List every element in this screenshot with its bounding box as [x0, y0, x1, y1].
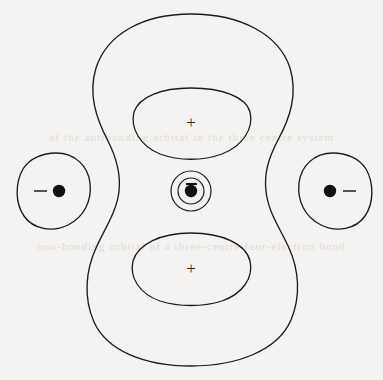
- left-side-lobe-group: [17, 153, 90, 229]
- left-nucleus-dot: [53, 185, 65, 197]
- central-nucleus-group: [171, 171, 211, 211]
- right-nucleus-dot: [324, 185, 336, 197]
- right-side-lobe-group: [299, 153, 372, 229]
- orbital-contour-canvas: + +: [0, 0, 383, 380]
- molecular-orbital-figure: of the antibonding orbital in the three …: [0, 0, 383, 380]
- lower-lobe-plus-sign: +: [186, 259, 196, 278]
- central-nucleus-dot: [185, 185, 197, 197]
- upper-lobe-plus-sign: +: [186, 113, 196, 132]
